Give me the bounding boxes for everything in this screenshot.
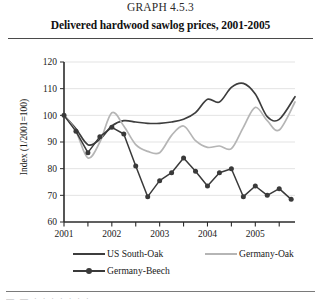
svg-text:80: 80 — [48, 164, 58, 174]
legend-item-germany-oak: Germany-Oak — [205, 248, 294, 259]
legend-swatch-icon — [205, 249, 237, 259]
legend-label: Germany-Beech — [107, 265, 170, 276]
graph-figure: GRAPH 4.5.3 Delivered hardwood sawlog pr… — [0, 0, 321, 305]
footer-divider — [6, 291, 315, 292]
svg-text:70: 70 — [48, 191, 58, 201]
svg-text:2003: 2003 — [150, 229, 169, 239]
svg-text:2001: 2001 — [55, 229, 74, 239]
graph-number: GRAPH 4.5.3 — [0, 1, 321, 13]
legend-item-germany-beech: Germany-Beech — [73, 265, 170, 276]
chart-legend: US South-Oak Germany-Oak Germany-Beech — [0, 248, 321, 288]
svg-text:2005: 2005 — [246, 229, 265, 239]
legend-swatch-icon — [73, 266, 105, 276]
svg-text:120: 120 — [43, 57, 58, 67]
svg-text:110: 110 — [43, 84, 57, 94]
clipped-footer-text: — — · · · · · · · — [6, 294, 315, 305]
svg-text:60: 60 — [48, 217, 58, 227]
legend-item-us-south-oak: US South-Oak — [73, 248, 163, 259]
y-axis-label: Index (1/2001=100) — [19, 77, 29, 197]
legend-label: Germany-Oak — [239, 248, 294, 259]
legend-label: US South-Oak — [107, 248, 163, 259]
svg-text:2004: 2004 — [198, 229, 217, 239]
plot-area: Index (1/2001=100) 607080901001101202001… — [0, 44, 321, 240]
legend-swatch-icon — [73, 249, 105, 259]
svg-text:100: 100 — [43, 111, 58, 121]
svg-text:2002: 2002 — [102, 229, 121, 239]
title-divider — [8, 38, 313, 39]
svg-text:90: 90 — [48, 137, 58, 147]
line-chart: 6070809010011012020012002200320042005 — [0, 44, 321, 240]
page-title: Delivered hardwood sawlog prices, 2001-2… — [0, 19, 321, 31]
